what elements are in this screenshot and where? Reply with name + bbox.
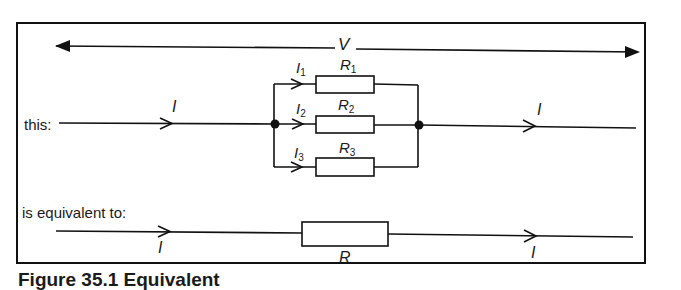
resistor-1-label: R1 xyxy=(340,56,357,75)
current-2-label: I2 xyxy=(296,100,306,119)
equivalent-current-in-label: I xyxy=(158,239,163,256)
equivalent-label: is equivalent to: xyxy=(22,204,126,221)
parallel-circuit: this: I I1 R1 I2 R2 I3 R3 xyxy=(24,56,636,176)
current-1-label: I1 xyxy=(296,59,306,78)
current-in-label: I xyxy=(172,98,177,115)
current-out-label: I xyxy=(537,101,542,118)
arrow-right-icon xyxy=(625,46,640,58)
resistor-3-label: R3 xyxy=(339,139,356,158)
resistor-r xyxy=(302,222,388,246)
resistor-2-label: R2 xyxy=(338,96,355,115)
current-3-label: I3 xyxy=(294,144,304,163)
arrow-left-icon xyxy=(55,40,70,52)
voltage-label: V xyxy=(338,35,351,54)
equivalent-resistor-label: R xyxy=(339,249,351,266)
figure-caption: Figure 35.1 Equivalent xyxy=(18,270,220,289)
this-label: this: xyxy=(24,116,52,133)
resistor-r2 xyxy=(316,116,374,133)
resistor-r3 xyxy=(316,158,374,176)
equivalent-current-out-label: I xyxy=(531,244,536,261)
equivalent-circuit: is equivalent to: I R I xyxy=(22,204,633,266)
resistor-r1 xyxy=(316,76,374,93)
voltage-arrow: V xyxy=(55,35,640,58)
